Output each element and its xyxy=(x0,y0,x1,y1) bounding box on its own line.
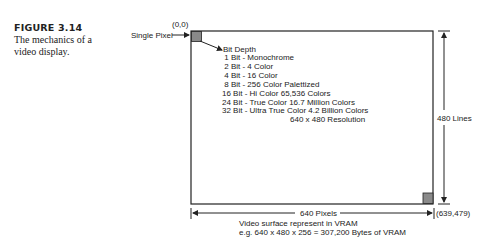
end-coordinate-label: (639,479) xyxy=(436,209,470,218)
single-pixel-bottom-right xyxy=(423,193,433,204)
width-label: 640 Pixels xyxy=(298,209,339,218)
resolution-label: 640 x 480 Resolution xyxy=(290,115,365,124)
video-display-diagram xyxy=(0,0,488,245)
bit-depth-list: 1 Bit - Monochrome 2 Bit - 4 Color 4 Bit… xyxy=(222,54,368,116)
origin-coordinate-label: (0,0) xyxy=(172,20,188,29)
single-pixel-top-left xyxy=(192,32,202,42)
height-label: 480 Lines xyxy=(437,113,472,124)
vram-caption-line2: e.g. 640 x 480 x 256 = 307,200 Bytes of … xyxy=(239,228,406,237)
bit-depth-arrow xyxy=(200,41,222,50)
single-pixel-label: Single Pixel xyxy=(131,31,173,40)
vram-caption-line1: Video surface represent in VRAM xyxy=(239,219,358,228)
